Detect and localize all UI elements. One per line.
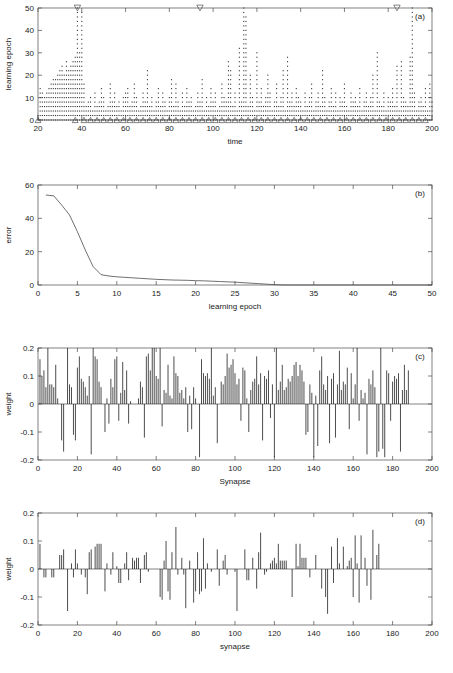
svg-text:40: 40 [25, 26, 34, 35]
panel-d-bar: 020406080100120140160180200-0.2-0.100.10… [0, 513, 453, 659]
svg-text:25: 25 [231, 289, 240, 298]
svg-text:160: 160 [347, 629, 361, 638]
svg-text:120: 120 [268, 629, 282, 638]
svg-text:0: 0 [30, 281, 35, 290]
error-curve [46, 195, 432, 285]
svg-text:180: 180 [386, 464, 400, 473]
svg-text:(a): (a) [415, 12, 425, 21]
svg-text:0.2: 0.2 [23, 509, 35, 518]
scatter-points [37, 7, 432, 120]
svg-text:45: 45 [388, 289, 397, 298]
svg-text:50: 50 [25, 4, 34, 13]
axes: 020406080100120140160180200-0.2-0.100.10… [4, 509, 439, 651]
svg-text:error: error [4, 226, 13, 243]
svg-text:20: 20 [191, 289, 200, 298]
svg-text:time: time [227, 137, 243, 146]
svg-text:40: 40 [77, 124, 86, 133]
svg-text:20: 20 [25, 248, 34, 257]
svg-text:140: 140 [294, 124, 308, 133]
svg-text:100: 100 [206, 124, 220, 133]
svg-text:synapse: synapse [220, 642, 250, 651]
svg-text:-0.1: -0.1 [20, 593, 34, 602]
svg-text:0: 0 [36, 464, 41, 473]
svg-text:0.1: 0.1 [23, 372, 35, 381]
svg-text:20: 20 [73, 464, 82, 473]
svg-text:0: 0 [30, 116, 35, 125]
svg-text:0.1: 0.1 [23, 537, 35, 546]
svg-text:(b): (b) [415, 189, 425, 198]
bars [40, 527, 379, 614]
axes: 020406080100120140160180200-0.2-0.100.10… [4, 344, 439, 486]
svg-text:5: 5 [75, 289, 80, 298]
svg-text:10: 10 [112, 289, 121, 298]
svg-text:weight: weight [4, 392, 13, 417]
svg-text:-0.1: -0.1 [20, 428, 34, 437]
axes: 2040608010012014016018020001020304050tim… [4, 4, 439, 146]
svg-text:180: 180 [382, 124, 396, 133]
svg-text:140: 140 [307, 464, 321, 473]
svg-text:weight: weight [4, 557, 13, 582]
svg-text:160: 160 [338, 124, 352, 133]
svg-text:200: 200 [425, 464, 439, 473]
svg-text:15: 15 [152, 289, 161, 298]
svg-text:30: 30 [270, 289, 279, 298]
svg-text:10: 10 [25, 94, 34, 103]
svg-text:80: 80 [165, 124, 174, 133]
svg-text:learning epoch: learning epoch [209, 302, 261, 311]
svg-text:Synapse: Synapse [219, 477, 251, 486]
svg-text:20: 20 [25, 71, 34, 80]
svg-text:180: 180 [386, 629, 400, 638]
triangle-markers [35, 5, 428, 122]
figure-root: 2040608010012014016018020001020304050tim… [0, 0, 453, 673]
svg-text:40: 40 [112, 464, 121, 473]
svg-text:(d): (d) [415, 517, 425, 526]
panel-a-scatter: 2040608010012014016018020001020304050tim… [0, 8, 453, 154]
svg-text:0.2: 0.2 [23, 344, 35, 353]
svg-text:30: 30 [25, 49, 34, 58]
svg-text:20: 20 [34, 124, 43, 133]
svg-text:50: 50 [428, 289, 437, 298]
panel-b-line: 051015202530354045500204060learning epoc… [0, 185, 453, 319]
svg-text:40: 40 [349, 289, 358, 298]
svg-text:40: 40 [112, 629, 121, 638]
svg-text:80: 80 [191, 464, 200, 473]
svg-text:80: 80 [191, 629, 200, 638]
svg-text:20: 20 [73, 629, 82, 638]
svg-text:60: 60 [25, 181, 34, 190]
svg-text:60: 60 [152, 464, 161, 473]
svg-text:160: 160 [347, 464, 361, 473]
svg-text:-0.2: -0.2 [20, 456, 34, 465]
svg-text:learning epoch: learning epoch [4, 38, 13, 90]
svg-text:0: 0 [30, 400, 35, 409]
svg-text:120: 120 [250, 124, 264, 133]
svg-text:(c): (c) [415, 352, 425, 361]
svg-text:40: 40 [25, 214, 34, 223]
svg-text:35: 35 [309, 289, 318, 298]
svg-text:120: 120 [268, 464, 282, 473]
svg-text:0: 0 [36, 289, 41, 298]
svg-text:60: 60 [121, 124, 130, 133]
svg-text:-0.2: -0.2 [20, 621, 34, 630]
svg-text:100: 100 [228, 464, 242, 473]
svg-text:200: 200 [425, 629, 439, 638]
svg-text:0: 0 [30, 565, 35, 574]
svg-text:200: 200 [425, 124, 439, 133]
svg-text:140: 140 [307, 629, 321, 638]
panel-c-bar: 020406080100120140160180200-0.2-0.100.10… [0, 348, 453, 494]
axes: 051015202530354045500204060learning epoc… [4, 181, 437, 311]
svg-text:100: 100 [228, 629, 242, 638]
svg-text:60: 60 [152, 629, 161, 638]
svg-text:0: 0 [36, 629, 41, 638]
bars [40, 348, 408, 457]
